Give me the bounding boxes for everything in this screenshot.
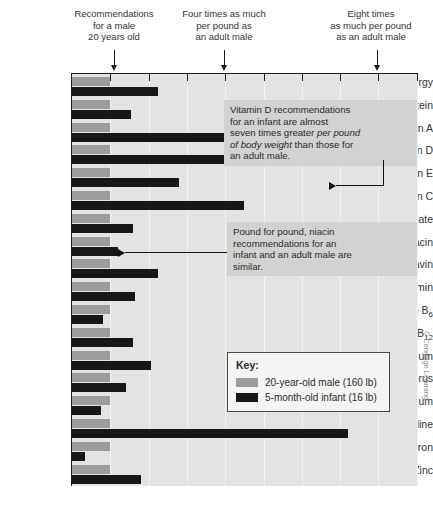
bar-row xyxy=(72,418,418,439)
bar-row xyxy=(72,281,418,302)
chart-figure: Recommendations for a male 20 years old … xyxy=(0,0,433,505)
bar-adult-male-phosphorus xyxy=(72,373,110,382)
bar-adult-male-vitamin-c xyxy=(72,191,110,200)
bar-adult-male-energy xyxy=(72,77,110,86)
bar-adult-male-vitamin-a xyxy=(72,123,110,132)
callout-4x-arrow xyxy=(224,50,225,66)
bar-adult-male-niacin xyxy=(72,237,110,246)
bar-infant-niacin xyxy=(72,247,118,256)
bar-adult-male-vitamin-b6 xyxy=(72,305,110,314)
annotation-vitamin-d-arrowhead xyxy=(329,182,336,190)
annotation-niacin: Pound for pound, niacin recommendations … xyxy=(227,222,417,276)
bar-adult-male-iodine xyxy=(72,419,110,428)
bar-adult-male-vitamin-d xyxy=(72,145,110,154)
annotation-niacin-leader-h xyxy=(125,252,227,253)
callout-1x-label: Recommendations for a male 20 years old xyxy=(50,8,178,43)
bar-infant-folate xyxy=(72,224,133,233)
bar-adult-male-folate xyxy=(72,214,110,223)
bar-infant-vitamin-b12 xyxy=(72,338,133,347)
bar-adult-male-calcium xyxy=(72,351,110,360)
bar-row xyxy=(72,76,418,97)
bar-row xyxy=(72,464,418,485)
chart-legend: Key: 20-year-old male (160 lb) 5-month-o… xyxy=(227,352,390,412)
legend-swatch-adult-male xyxy=(236,378,258,387)
callout-1x-arrow xyxy=(114,50,115,66)
bar-infant-zinc xyxy=(72,475,141,484)
bar-infant-vitamin-a xyxy=(72,133,237,142)
callout-8x-label: Eight times as much per pound as an adul… xyxy=(309,8,433,43)
bar-row xyxy=(72,327,418,348)
bar-infant-phosphorus xyxy=(72,383,126,392)
bar-infant-iron xyxy=(72,452,85,461)
callout-4x-label: Four times as much per pound as an adult… xyxy=(160,8,288,43)
bar-adult-male-riboflavin xyxy=(72,259,110,268)
bar-adult-male-vitamin-e xyxy=(72,168,110,177)
bar-infant-vitamin-c xyxy=(72,201,244,210)
bar-infant-vitamin-b6 xyxy=(72,315,103,324)
bar-adult-male-thiamin xyxy=(72,282,110,291)
legend-title: Key: xyxy=(236,359,381,372)
bar-infant-energy xyxy=(72,87,158,96)
legend-label-adult-male: 20-year-old male (160 lb) xyxy=(265,376,377,389)
legend-item-adult-male: 20-year-old male (160 lb) xyxy=(236,376,381,389)
bar-infant-thiamin xyxy=(72,292,135,301)
legend-swatch-infant xyxy=(236,393,258,402)
bar-row xyxy=(72,190,418,211)
bar-infant-vitamin-e xyxy=(72,178,179,187)
annotation-vitamin-d: Vitamin D recommendations for an infant … xyxy=(224,100,417,166)
bar-infant-magnesium xyxy=(72,406,101,415)
bar-row xyxy=(72,304,418,325)
legend-label-infant: 5-month-old infant (16 lb) xyxy=(265,391,377,404)
legend-item-infant: 5-month-old infant (16 lb) xyxy=(236,391,381,404)
annotation-vitamin-d-leader-v xyxy=(383,160,384,186)
annotation-vitamin-d-text: Vitamin D recommendations for an infant … xyxy=(230,104,411,162)
bar-row xyxy=(72,441,418,462)
bar-adult-male-magnesium xyxy=(72,396,110,405)
bar-infant-iodine xyxy=(72,429,348,438)
annotation-vitamin-d-leader-h xyxy=(336,185,384,186)
annotation-niacin-arrowhead xyxy=(118,249,125,257)
bar-infant-riboflavin xyxy=(72,269,158,278)
bar-adult-male-zinc xyxy=(72,465,110,474)
bar-infant-calcium xyxy=(72,361,151,370)
bar-infant-protein xyxy=(72,110,131,119)
bar-adult-male-protein xyxy=(72,100,110,109)
bar-adult-male-vitamin-b12 xyxy=(72,328,110,337)
copyright-credit: © Cengage Learning xyxy=(422,331,431,400)
bar-adult-male-iron xyxy=(72,442,110,451)
callout-8x-arrow xyxy=(377,50,378,66)
annotation-niacin-text: Pound for pound, niacin recommendations … xyxy=(233,226,411,272)
